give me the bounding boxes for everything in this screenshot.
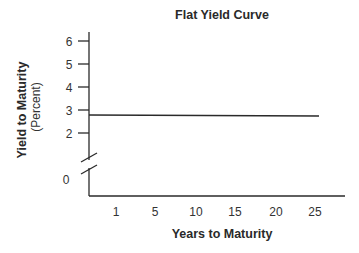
flat-yield-curve-chart: Flat Yield Curve Yield to Maturity (Perc… bbox=[0, 0, 359, 253]
y-ticks bbox=[78, 41, 89, 133]
x-tick-label: 5 bbox=[152, 205, 159, 219]
x-tick-label: 20 bbox=[269, 205, 283, 219]
chart-title: Flat Yield Curve bbox=[175, 8, 269, 22]
x-tick-label: 10 bbox=[189, 205, 203, 219]
y-tick-label: 4 bbox=[66, 81, 73, 95]
x-axis-title: Years to Maturity bbox=[172, 227, 273, 241]
y-tick-label: 6 bbox=[66, 35, 73, 49]
x-tick-label: 15 bbox=[228, 205, 242, 219]
y-tick-label: 0 bbox=[63, 173, 70, 187]
y-tick-label: 5 bbox=[66, 58, 73, 72]
y-axis-title: Yield to Maturity bbox=[15, 62, 29, 159]
yield-curve-line bbox=[89, 115, 319, 116]
x-tick-label: 25 bbox=[308, 205, 322, 219]
x-tick-label: 1 bbox=[113, 205, 120, 219]
y-tick-label: 2 bbox=[66, 127, 73, 141]
y-tick-label: 3 bbox=[66, 104, 73, 118]
y-axis-subtitle: (Percent) bbox=[29, 82, 43, 131]
